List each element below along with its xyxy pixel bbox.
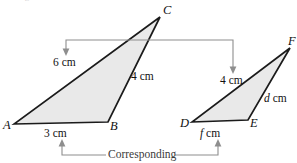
vertex-label-d: D bbox=[180, 117, 189, 130]
bottom-bracket-right-arrowhead bbox=[215, 139, 222, 147]
top-bracket-right-arrowhead bbox=[230, 67, 237, 75]
side-label-ef: d cm bbox=[264, 93, 287, 105]
corresponding-annotation-label: Corresponding bbox=[108, 149, 176, 161]
side-label-ac: 6 cm bbox=[53, 57, 76, 69]
geometry-figure: the figure A B C D E F 6 cm 4 cm 3 cm 4 … bbox=[0, 0, 297, 163]
top-bracket-left-arrowhead bbox=[63, 49, 70, 57]
top-correspondence-bracket bbox=[66, 40, 233, 69]
side-label-ab: 3 cm bbox=[44, 128, 67, 140]
vertex-label-c: C bbox=[163, 4, 171, 17]
side-label-df: 4 cm bbox=[220, 75, 243, 87]
side-label-de-unit: cm bbox=[203, 127, 220, 139]
side-label-ef-unit: cm bbox=[270, 92, 287, 104]
vertex-label-e: E bbox=[250, 117, 258, 130]
vertex-label-b: B bbox=[110, 120, 118, 133]
vertex-label-a: A bbox=[3, 119, 11, 132]
side-label-bc: 4 cm bbox=[131, 71, 154, 83]
bottom-bracket-left-arrowhead bbox=[59, 139, 66, 147]
vertex-label-f: F bbox=[288, 35, 296, 48]
side-label-de: f cm bbox=[200, 128, 220, 140]
